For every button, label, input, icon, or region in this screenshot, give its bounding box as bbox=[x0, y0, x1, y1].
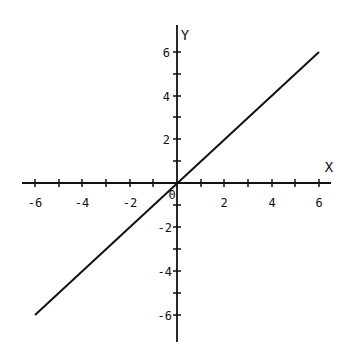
chart: -6 -4 -2 2 4 6 0 6 4 2 -2 -4 -6 X Y bbox=[0, 0, 358, 361]
y-tick-label: 4 bbox=[163, 90, 170, 104]
x-tick-label: 6 bbox=[315, 196, 322, 210]
x-axis-title: X bbox=[325, 159, 334, 175]
y-tick-label: -4 bbox=[158, 265, 172, 279]
x-tick-label: -4 bbox=[75, 196, 89, 210]
x-tick-label: 4 bbox=[268, 196, 275, 210]
y-tick-label: 2 bbox=[163, 133, 170, 147]
origin-label: 0 bbox=[168, 188, 175, 202]
y-axis-title: Y bbox=[181, 27, 190, 43]
x-tick-label: -6 bbox=[28, 196, 42, 210]
x-tick-label: 2 bbox=[220, 196, 227, 210]
y-tick-label: -6 bbox=[158, 309, 172, 323]
y-tick-label: -2 bbox=[158, 221, 172, 235]
y-tick-label: 6 bbox=[163, 46, 170, 60]
x-tick-label: -2 bbox=[123, 196, 137, 210]
